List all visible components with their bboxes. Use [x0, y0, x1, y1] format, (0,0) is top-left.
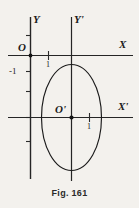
origin-label: O [18, 42, 26, 53]
figure-caption: Fig. 161 [0, 188, 139, 198]
x-tick-label-one: 1 [46, 61, 50, 69]
origin-prime-point [69, 115, 73, 119]
x-axis-label: X [119, 39, 126, 50]
x-prime-tick-label-one: 1 [87, 123, 91, 131]
y-axis-label: Y [33, 14, 40, 25]
translated-axes [8, 17, 133, 181]
y-axis-ticks [26, 36, 30, 142]
original-axes [8, 17, 133, 179]
origin-prime-label: O' [55, 104, 66, 115]
x-prime-axis-label: X' [118, 101, 128, 112]
y-prime-axis-label: Y' [74, 14, 84, 25]
y-tick-label-minus-one: -1 [9, 67, 17, 76]
origin-point [29, 54, 33, 58]
figure-container: Y Y' X X' O O' -1 1 1 Fig. 161 [0, 0, 139, 208]
